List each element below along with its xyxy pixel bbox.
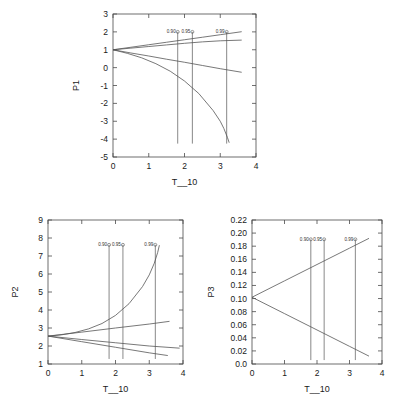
y-axis-title-p1: P1: [71, 80, 81, 91]
y-tick-label-p1: 2: [103, 27, 108, 37]
y-tick-label-p2: 2: [38, 341, 43, 351]
x-tick-label-p2: 2: [113, 368, 118, 378]
x-tick-label-p3: 0: [250, 368, 255, 378]
chart-panel-p2: 01234123456789T__10P20.900.950.99: [0, 206, 195, 402]
y-tick-label-p1: -2: [100, 98, 108, 108]
y-tick-label-p3: 0.14: [230, 267, 247, 277]
y-tick-label-p2: 5: [38, 287, 43, 297]
y-tick-label-p2: 4: [38, 305, 43, 315]
y-tick-label-p1: -3: [100, 116, 108, 126]
y-tick-label-p2: 8: [38, 233, 43, 243]
y-tick-label-p3: 0.0: [235, 359, 247, 369]
x-tick-label-p3: 4: [380, 368, 385, 378]
x-tick-label-p2: 1: [79, 368, 84, 378]
confidence-label-0.90-p3: 0.90: [300, 237, 309, 242]
confidence-label-0.99-p1: 0.99: [216, 29, 225, 34]
y-tick-label-p3: 0.22: [230, 215, 247, 225]
y-tick-label-p3: 0.12: [230, 280, 247, 290]
plot-frame-p1: [113, 14, 256, 157]
x-axis-title-p3: T__10: [304, 384, 330, 394]
y-tick-label-p1: 1: [103, 45, 108, 55]
confidence-label-0.90-p2: 0.90: [98, 242, 107, 247]
confidence-label-0.95-p3: 0.95: [313, 237, 322, 242]
confidence-label-0.99-p2: 0.99: [144, 242, 153, 247]
y-tick-label-p1: 3: [103, 9, 108, 19]
confidence-label-0.90-p1: 0.90: [167, 29, 176, 34]
chart-svg-p1: 01234-5-4-3-2-10123T__10P10.900.950.99: [60, 2, 270, 192]
confidence-label-0.95-p2: 0.95: [112, 242, 121, 247]
x-tick-label-p3: 2: [315, 368, 320, 378]
confidence-label-0.99-p3: 0.99: [344, 237, 353, 242]
y-tick-label-p1: 0: [103, 63, 108, 73]
y-tick-label-p2: 1: [38, 359, 43, 369]
x-tick-label-p1: 0: [111, 161, 116, 171]
x-tick-label-p2: 0: [46, 368, 51, 378]
confidence-label-0.95-p1: 0.95: [181, 29, 190, 34]
y-axis-title-p3: P3: [206, 286, 216, 297]
x-tick-label-p1: 3: [218, 161, 223, 171]
chart-svg-p3: 012340.00.020.040.060.080.100.120.140.16…: [196, 206, 395, 402]
y-tick-label-p3: 0.16: [230, 254, 247, 264]
x-tick-label-p1: 4: [254, 161, 259, 171]
y-tick-label-p3: 0.08: [230, 307, 247, 317]
y-tick-label-p2: 3: [38, 323, 43, 333]
chart-panel-p1: 01234-5-4-3-2-10123T__10P10.900.950.99: [60, 2, 270, 192]
series-lower-band-p1: [113, 50, 242, 73]
y-tick-label-p2: 9: [38, 215, 43, 225]
series-decay-curve-p1: [113, 50, 229, 143]
series-growth-curve-p2: [48, 245, 159, 336]
x-tick-label-p3: 3: [347, 368, 352, 378]
y-tick-label-p3: 0.02: [230, 346, 247, 356]
x-tick-label-p1: 2: [182, 161, 187, 171]
y-tick-label-p2: 6: [38, 269, 43, 279]
series-mid-band-p2: [48, 336, 180, 348]
series-mid-band-p1: [113, 40, 242, 50]
x-tick-label-p1: 1: [146, 161, 151, 171]
x-tick-label-p2: 4: [181, 368, 186, 378]
y-tick-label-p3: 0.18: [230, 241, 247, 251]
y-axis-title-p2: P2: [10, 286, 20, 297]
figure-canvas: 01234-5-4-3-2-10123T__10P10.900.950.99 0…: [0, 0, 395, 404]
y-tick-label-p3: 0.10: [230, 294, 247, 304]
y-tick-label-p1: -5: [100, 152, 108, 162]
chart-svg-p2: 01234123456789T__10P20.900.950.99: [0, 206, 195, 402]
y-tick-label-p1: -1: [100, 81, 108, 91]
y-tick-label-p1: -4: [100, 134, 108, 144]
y-tick-label-p3: 0.20: [230, 228, 247, 238]
y-tick-label-p2: 7: [38, 251, 43, 261]
y-tick-label-p3: 0.06: [230, 320, 247, 330]
x-axis-title-p2: T__10: [103, 384, 129, 394]
x-tick-label-p2: 3: [147, 368, 152, 378]
x-tick-label-p3: 1: [282, 368, 287, 378]
x-axis-title-p1: T__10: [172, 177, 198, 187]
y-tick-label-p3: 0.04: [230, 333, 247, 343]
chart-panel-p3: 012340.00.020.040.060.080.100.120.140.16…: [196, 206, 395, 402]
